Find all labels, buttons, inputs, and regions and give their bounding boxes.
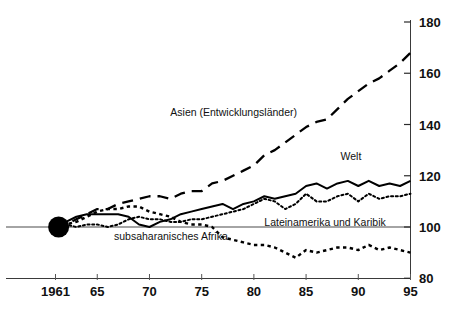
- series-label-3: subsaharanisches Afrika: [114, 230, 228, 242]
- x-tick-label-85: 85: [299, 284, 313, 299]
- x-tick-label-1961: 1961: [41, 284, 70, 299]
- origin-dot: [48, 217, 69, 238]
- series-label-1: Welt: [341, 150, 362, 162]
- y-tick-label-80: 80: [419, 271, 433, 286]
- series-label-2: Lateinamerika und Karibik: [264, 216, 386, 228]
- y-tick-label-160: 160: [419, 66, 441, 81]
- x-tick-label-65: 65: [90, 284, 104, 299]
- x-tick-label-75: 75: [194, 284, 208, 299]
- y-tick-label-120: 120: [419, 169, 441, 184]
- y-tick-label-100: 100: [419, 220, 441, 235]
- x-tick-label-90: 90: [351, 284, 365, 299]
- series-label-0: Asien (Entwicklungsländer): [170, 106, 297, 118]
- origin-marker-layer: [48, 217, 69, 238]
- x-tick-label-80: 80: [247, 284, 261, 299]
- index-line-chart: 80100120140160180 196165707580859095 Asi…: [0, 0, 474, 316]
- y-tick-label-140: 140: [419, 118, 441, 133]
- x-tick-label-70: 70: [142, 284, 156, 299]
- series-annotations: Asien (Entwicklungsländer)WeltLateinamer…: [114, 106, 387, 242]
- x-axis-ticks: 196165707580859095: [41, 274, 418, 299]
- x-tick-label-95: 95: [403, 284, 417, 299]
- y-axis-ticks: 80100120140160180: [404, 15, 441, 286]
- y-tick-label-180: 180: [419, 15, 441, 30]
- chart-page: 80100120140160180 196165707580859095 Asi…: [0, 0, 474, 316]
